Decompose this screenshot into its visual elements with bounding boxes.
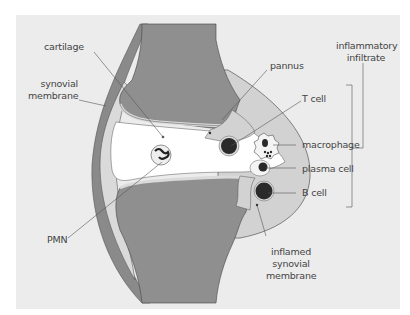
label-cartilage: cartilage [44,41,84,53]
label-inflamed-synovial-membrane: inflamed synovial membrane [266,246,316,282]
label-pmn: PMN [47,234,67,246]
label-plasma-cell: plasma cell [302,163,354,175]
label-b-cell: B cell [302,187,327,199]
label-macrophage: macrophage [302,139,360,151]
t-cell [219,136,239,156]
label-pannus: pannus [270,60,304,72]
label-t-cell: T cell [302,93,326,105]
label-inflammatory-infiltrate: inflammatory infiltrate [336,40,396,64]
label-synovial-membrane: synovial membrane [28,78,78,102]
pmn-cell [151,145,171,165]
b-cell [254,181,274,201]
